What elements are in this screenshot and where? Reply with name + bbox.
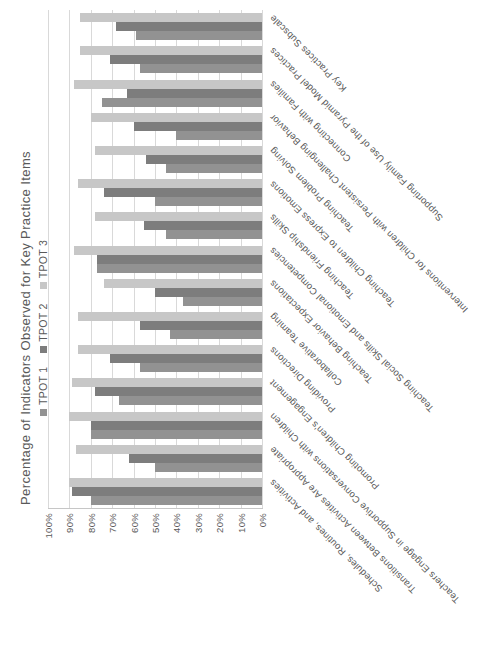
value-axis-line	[48, 508, 263, 509]
bar	[78, 179, 262, 188]
bar	[91, 421, 262, 430]
bar	[170, 330, 262, 339]
bar	[119, 396, 262, 405]
bar	[155, 463, 262, 472]
rotated-chart: Percentage of Indicators Observed for Ke…	[0, 0, 493, 656]
bar	[78, 345, 262, 354]
value-axis-tick-label: 70%	[107, 513, 118, 533]
value-axis-tick-label: 30%	[192, 513, 203, 533]
bar	[69, 478, 262, 487]
bar	[74, 246, 262, 255]
bar	[91, 430, 262, 439]
bar	[72, 487, 262, 496]
bar	[91, 496, 262, 505]
chart-title: Percentage of Indicators Observed for Ke…	[18, 0, 33, 656]
plot-area	[48, 10, 262, 508]
bar	[116, 22, 262, 31]
bar	[176, 131, 262, 140]
bar	[140, 363, 262, 372]
legend-swatch-icon	[40, 346, 47, 353]
value-axis-tick-label: 40%	[171, 513, 182, 533]
legend-swatch-icon	[40, 409, 47, 416]
bar	[166, 230, 262, 239]
bar	[127, 89, 262, 98]
bar	[72, 378, 262, 387]
bar	[91, 113, 262, 122]
bar	[155, 288, 262, 297]
value-axis-tick-label: 90%	[64, 513, 75, 533]
bar	[140, 321, 262, 330]
value-axis-tick-label: 60%	[128, 513, 139, 533]
bar	[134, 122, 262, 131]
value-axis-tick-label: 100%	[43, 513, 54, 539]
bar	[140, 64, 262, 73]
value-axis-tick-label: 10%	[235, 513, 246, 533]
bar	[76, 445, 262, 454]
bar	[110, 354, 262, 363]
gridline	[69, 10, 70, 508]
bar	[78, 312, 262, 321]
value-axis-tick-label: 0%	[257, 513, 268, 527]
bar	[136, 31, 262, 40]
bar	[95, 387, 262, 396]
bar	[166, 164, 262, 173]
bar	[110, 55, 262, 64]
bar	[69, 412, 262, 421]
bar	[144, 221, 262, 230]
chart-screenshot: Percentage of Indicators Observed for Ke…	[0, 0, 493, 656]
bar	[146, 155, 262, 164]
value-axis-tick-label: 50%	[150, 513, 161, 533]
gridline	[262, 10, 263, 508]
bar	[80, 46, 262, 55]
bar	[97, 255, 262, 264]
legend-swatch-icon	[40, 282, 47, 289]
bar	[74, 80, 262, 89]
bar	[183, 297, 262, 306]
bar	[104, 279, 262, 288]
bar	[104, 188, 262, 197]
bar	[102, 98, 263, 107]
bar	[80, 13, 262, 22]
bar	[129, 454, 262, 463]
category-label: Transitions Between Activities Are Appro…	[267, 444, 418, 595]
gridline	[48, 10, 49, 508]
value-axis-tick-label: 80%	[85, 513, 96, 533]
value-axis-tick-label: 20%	[214, 513, 225, 533]
bar	[95, 212, 262, 221]
bar	[155, 197, 262, 206]
bar	[97, 264, 262, 273]
bar	[95, 146, 262, 155]
